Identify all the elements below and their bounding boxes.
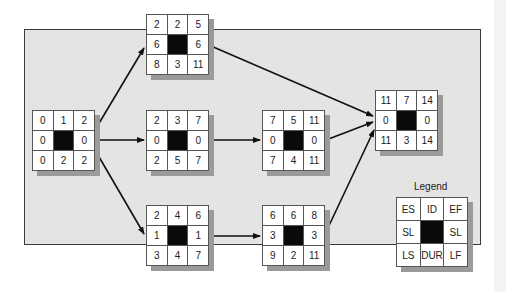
node-id: 7: [397, 91, 417, 110]
node-activity-5: 7 5 11 0 0 7 4 11: [262, 110, 325, 171]
node-dur: 4: [284, 151, 304, 170]
node-es: 6: [263, 206, 283, 225]
legend-title: Legend: [414, 181, 447, 192]
node-slack-right: 0: [74, 131, 94, 150]
legend-ls: LS: [397, 244, 420, 266]
node-ef: 5: [188, 15, 208, 34]
node-dur: 4: [168, 246, 188, 265]
node-id: 5: [284, 111, 304, 130]
node-es: 7: [263, 111, 283, 130]
node-slack-right: 0: [304, 131, 324, 150]
node-center-block: [168, 226, 188, 245]
arrow-6-7: [326, 130, 374, 232]
node-slack-left: 3: [263, 226, 283, 245]
node-center-block: [397, 111, 417, 130]
legend-es: ES: [397, 198, 420, 220]
node-lf: 11: [304, 246, 324, 265]
node-id: 1: [54, 111, 74, 130]
node-ef: 7: [188, 111, 208, 130]
legend-dur: DUR: [421, 244, 444, 266]
node-ef: 14: [417, 91, 437, 110]
arrow-5-7: [326, 122, 373, 140]
node-es: 11: [376, 91, 396, 110]
node-center-block: [168, 35, 188, 54]
node-lf: 2: [74, 151, 94, 170]
node-activity-1: 0 1 2 0 0 0 2 2: [32, 110, 95, 171]
node-dur: 2: [54, 151, 74, 170]
node-ls: 8: [147, 55, 167, 74]
node-ef: 6: [188, 206, 208, 225]
node-es: 0: [33, 111, 53, 130]
node-lf: 7: [188, 151, 208, 170]
node-ef: 8: [304, 206, 324, 225]
node-id: 2: [168, 15, 188, 34]
node-dur: 5: [168, 151, 188, 170]
node-slack-left: 0: [376, 111, 396, 130]
node-slack-right: 1: [188, 226, 208, 245]
legend-lf: LF: [444, 244, 467, 266]
node-id: 4: [168, 206, 188, 225]
node-lf: 11: [188, 55, 208, 74]
node-lf: 14: [417, 131, 437, 150]
legend-slack-right: SL: [444, 221, 467, 243]
node-center-block: [284, 226, 304, 245]
arrow-2-7: [211, 46, 373, 116]
node-center-block: [284, 131, 304, 150]
node-dur: 3: [168, 55, 188, 74]
legend-ef: EF: [444, 198, 467, 220]
legend-slack-left: SL: [397, 221, 420, 243]
node-slack-left: 1: [147, 226, 167, 245]
node-slack-left: 0: [147, 131, 167, 150]
node-lf: 7: [188, 246, 208, 265]
node-dur: 2: [284, 246, 304, 265]
legend-center-block: [421, 221, 444, 243]
node-ef: 2: [74, 111, 94, 130]
node-es: 2: [147, 15, 167, 34]
node-ls: 9: [263, 246, 283, 265]
node-center-block: [168, 131, 188, 150]
node-ls: 7: [263, 151, 283, 170]
node-ls: 11: [376, 131, 396, 150]
node-activity-2: 2 2 5 6 6 8 3 11: [146, 14, 209, 75]
node-ls: 2: [147, 151, 167, 170]
node-slack-right: 0: [188, 131, 208, 150]
legend-box: ES ID EF SL SL LS DUR LF: [396, 197, 468, 267]
node-id: 6: [284, 206, 304, 225]
node-slack-left: 6: [147, 35, 167, 54]
node-es: 2: [147, 206, 167, 225]
arrow-1-2: [95, 48, 144, 130]
node-ls: 3: [147, 246, 167, 265]
node-ls: 0: [33, 151, 53, 170]
node-slack-right: 3: [304, 226, 324, 245]
node-slack-left: 0: [263, 131, 283, 150]
node-activity-4: 2 4 6 1 1 3 4 7: [146, 205, 209, 266]
node-slack-left: 0: [33, 131, 53, 150]
node-slack-right: 0: [417, 111, 437, 130]
arrow-1-4: [95, 150, 144, 234]
node-es: 2: [147, 111, 167, 130]
node-center-block: [54, 131, 74, 150]
node-slack-right: 6: [188, 35, 208, 54]
node-activity-7: 11 7 14 0 0 11 3 14: [375, 90, 438, 151]
node-activity-3: 2 3 7 0 0 2 5 7: [146, 110, 209, 171]
node-lf: 11: [304, 151, 324, 170]
node-activity-6: 6 6 8 3 3 9 2 11: [262, 205, 325, 266]
node-dur: 3: [397, 131, 417, 150]
legend-id: ID: [421, 198, 444, 220]
node-id: 3: [168, 111, 188, 130]
node-ef: 11: [304, 111, 324, 130]
